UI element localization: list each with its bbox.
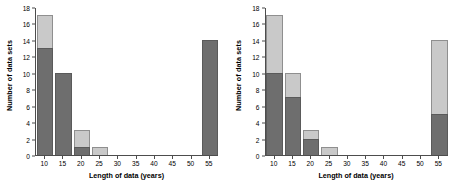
x-tick-label: 50 bbox=[416, 160, 423, 167]
y-tick-label: 18 bbox=[23, 5, 30, 12]
y-tick-label: 2 bbox=[256, 136, 260, 143]
y-tick-label: 18 bbox=[252, 5, 259, 12]
y-tick-label: 0 bbox=[26, 153, 30, 160]
x-tick-mark bbox=[154, 156, 155, 159]
y-tick-label: 2 bbox=[26, 136, 30, 143]
x-tick-mark bbox=[310, 156, 311, 159]
y-tick-label: 0 bbox=[256, 153, 260, 160]
x-tick-label: 40 bbox=[150, 160, 157, 167]
y-tick-label: 6 bbox=[256, 103, 260, 110]
x-tick-mark bbox=[292, 156, 293, 159]
x-tick-label: 55 bbox=[435, 160, 442, 167]
x-tick-label: 30 bbox=[343, 160, 350, 167]
x-axis-ticks-left: 10152025303540455055 bbox=[35, 156, 218, 170]
x-tick-label: 10 bbox=[40, 160, 47, 167]
bar-segment-dark bbox=[303, 139, 319, 155]
bar-segment-light bbox=[431, 40, 447, 114]
chart-panel-right: Number of data sets 024681012141618 1015… bbox=[230, 0, 459, 188]
x-tick-label: 30 bbox=[114, 160, 121, 167]
y-tick-label: 4 bbox=[26, 120, 30, 127]
y-tick-label: 8 bbox=[256, 87, 260, 94]
y-tick-label: 4 bbox=[256, 120, 260, 127]
x-tick-mark bbox=[347, 156, 348, 159]
x-tick-mark bbox=[136, 156, 137, 159]
x-tick-mark bbox=[329, 156, 330, 159]
x-tick-label: 35 bbox=[132, 160, 139, 167]
bar-25 bbox=[321, 147, 337, 155]
x-tick-label: 20 bbox=[307, 160, 314, 167]
plot-area-right bbox=[265, 8, 448, 156]
y-axis-title-left-text: Number of data sets bbox=[5, 40, 14, 111]
x-tick-mark bbox=[117, 156, 118, 159]
y-tick-label: 16 bbox=[252, 21, 259, 28]
y-axis-title-right: Number of data sets bbox=[232, 0, 246, 150]
bar-25 bbox=[92, 147, 108, 155]
bar-segment-light bbox=[266, 15, 282, 73]
bar-segment-dark bbox=[285, 97, 301, 155]
x-tick-label: 15 bbox=[288, 160, 295, 167]
x-tick-label: 45 bbox=[398, 160, 405, 167]
y-tick-label: 6 bbox=[26, 103, 30, 110]
bar-segment-dark bbox=[431, 114, 447, 155]
x-tick-mark bbox=[99, 156, 100, 159]
bar-10 bbox=[266, 15, 282, 155]
bar-segment-dark bbox=[202, 40, 218, 155]
x-tick-mark bbox=[438, 156, 439, 159]
bar-20 bbox=[303, 130, 319, 155]
bar-segment-light bbox=[74, 130, 90, 146]
x-tick-mark bbox=[209, 156, 210, 159]
figure-two-histograms: Number of data sets 024681012141618 1015… bbox=[0, 0, 459, 188]
plot-area-left bbox=[35, 8, 218, 156]
y-tick-label: 14 bbox=[252, 37, 259, 44]
bar-segment-dark bbox=[266, 73, 282, 155]
y-axis-title-left: Number of data sets bbox=[2, 0, 16, 150]
x-tick-label: 25 bbox=[325, 160, 332, 167]
x-tick-label: 40 bbox=[380, 160, 387, 167]
y-tick-label: 12 bbox=[23, 54, 30, 61]
bar-segment-light bbox=[303, 130, 319, 138]
x-tick-label: 15 bbox=[59, 160, 66, 167]
bars-left bbox=[36, 8, 218, 155]
x-tick-label: 55 bbox=[205, 160, 212, 167]
x-axis-title-left: Length of data (years) bbox=[35, 171, 218, 180]
x-tick-label: 20 bbox=[77, 160, 84, 167]
x-tick-mark bbox=[402, 156, 403, 159]
bar-segment-light bbox=[92, 147, 108, 155]
x-tick-label: 50 bbox=[187, 160, 194, 167]
x-tick-label: 35 bbox=[361, 160, 368, 167]
bar-55 bbox=[202, 40, 218, 155]
y-tick-label: 14 bbox=[23, 37, 30, 44]
x-tick-mark bbox=[383, 156, 384, 159]
x-tick-label: 10 bbox=[270, 160, 277, 167]
y-tick-label: 8 bbox=[26, 87, 30, 94]
bars-right bbox=[266, 8, 448, 155]
bar-segment-dark bbox=[55, 73, 71, 155]
x-tick-mark bbox=[274, 156, 275, 159]
x-tick-mark bbox=[81, 156, 82, 159]
x-axis-title-right: Length of data (years) bbox=[265, 171, 448, 180]
bar-segment-light bbox=[285, 73, 301, 98]
bar-15 bbox=[55, 73, 71, 155]
x-tick-mark bbox=[191, 156, 192, 159]
x-axis-ticks-right: 10152025303540455055 bbox=[265, 156, 448, 170]
bar-20 bbox=[74, 130, 90, 155]
chart-panel-left: Number of data sets 024681012141618 1015… bbox=[0, 0, 230, 188]
x-tick-label: 25 bbox=[95, 160, 102, 167]
x-tick-mark bbox=[172, 156, 173, 159]
bar-10 bbox=[37, 15, 53, 155]
y-tick-label: 10 bbox=[252, 70, 259, 77]
x-tick-mark bbox=[365, 156, 366, 159]
y-tick-label: 12 bbox=[252, 54, 259, 61]
bar-55 bbox=[431, 40, 447, 155]
y-axis-ticks-right: 024681012141618 bbox=[246, 8, 262, 156]
y-axis-ticks-left: 024681012141618 bbox=[16, 8, 32, 156]
bar-15 bbox=[285, 73, 301, 155]
bar-segment-dark bbox=[74, 147, 90, 155]
x-tick-label: 45 bbox=[169, 160, 176, 167]
bar-segment-light bbox=[37, 15, 53, 48]
y-axis-title-right-text: Number of data sets bbox=[234, 40, 243, 111]
x-tick-mark bbox=[44, 156, 45, 159]
y-tick-label: 10 bbox=[23, 70, 30, 77]
y-tick-label: 16 bbox=[23, 21, 30, 28]
bar-segment-light bbox=[321, 147, 337, 155]
